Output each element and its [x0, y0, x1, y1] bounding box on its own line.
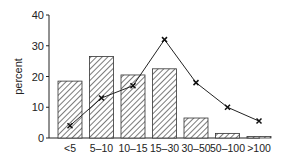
y-tick-label: 0	[38, 132, 44, 144]
x-marker	[257, 119, 262, 124]
y-tick-label: 10	[32, 101, 44, 113]
y-tick-label: 30	[32, 40, 44, 52]
chart: 010203040percent<55–1010–1515–3030–5050–…	[0, 0, 283, 164]
x-tick-label: 30–50	[181, 142, 210, 154]
x-tick-label: >100	[247, 142, 271, 154]
x-tick-label: 5–10	[90, 142, 114, 154]
x-tick-label: <5	[64, 142, 76, 154]
x-marker	[225, 105, 230, 110]
x-tick-label: 50–100	[210, 142, 245, 154]
x-marker	[162, 37, 167, 42]
bar	[216, 133, 240, 138]
x-tick-label: 10–15	[118, 142, 147, 154]
x-marker	[194, 80, 199, 85]
bar	[58, 81, 82, 138]
bar	[184, 118, 208, 138]
y-tick-label: 20	[32, 71, 44, 83]
y-axis-label: percent	[12, 58, 24, 95]
bar	[153, 69, 177, 138]
bars	[58, 57, 271, 138]
y-tick-label: 40	[32, 9, 44, 21]
x-tick-label: 15–30	[150, 142, 179, 154]
bar	[247, 136, 271, 138]
bar	[121, 75, 145, 138]
